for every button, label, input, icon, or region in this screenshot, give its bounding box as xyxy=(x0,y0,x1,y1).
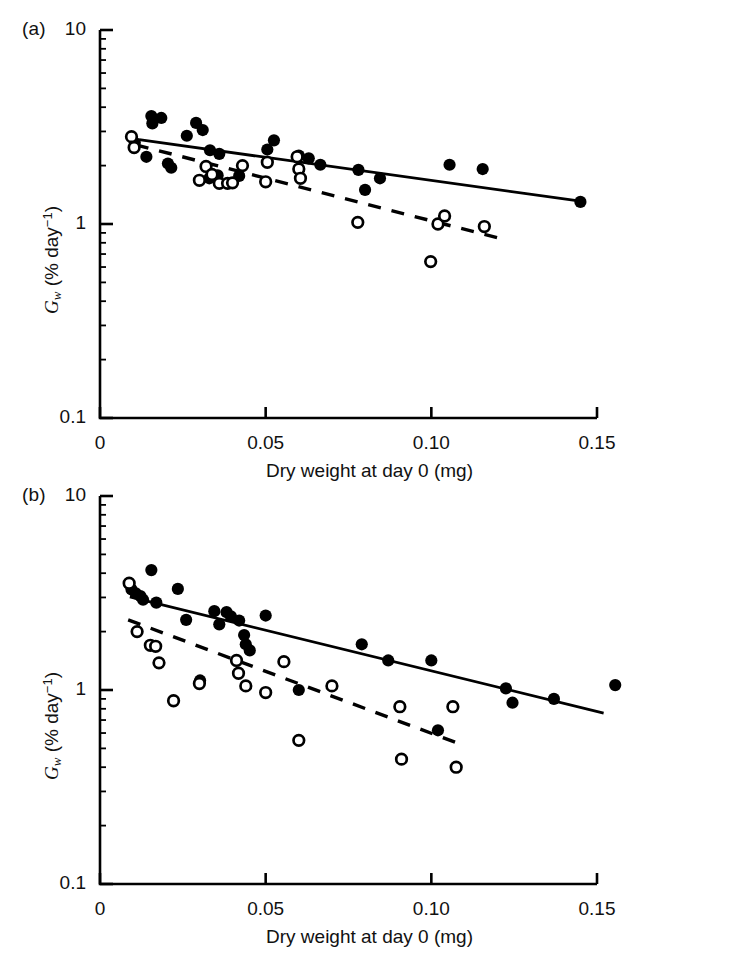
data-point-open-circles xyxy=(129,142,140,153)
data-point-open-circles xyxy=(479,221,490,232)
data-point-filled-circles xyxy=(165,162,177,174)
figure-root: (a)1010.100.050.100.15Dry weight at day … xyxy=(0,0,739,980)
data-point-open-circles xyxy=(240,681,251,692)
data-point-filled-circles xyxy=(145,564,157,576)
data-point-open-circles xyxy=(327,681,338,692)
data-point-filled-circles xyxy=(374,172,386,184)
data-point-filled-circles xyxy=(197,124,209,136)
data-point-open-circles xyxy=(352,217,363,228)
data-point-open-circles xyxy=(194,678,205,689)
data-point-filled-circles xyxy=(574,196,586,208)
dashed-regression xyxy=(136,145,501,239)
data-point-open-circles xyxy=(448,701,459,712)
data-point-open-circles xyxy=(395,701,406,712)
data-point-filled-circles xyxy=(382,654,394,666)
data-point-open-circles xyxy=(451,762,462,773)
data-point-open-circles xyxy=(237,160,248,171)
data-point-open-circles xyxy=(295,173,306,184)
plot-area-b xyxy=(0,466,739,956)
data-point-filled-circles xyxy=(443,159,455,171)
data-point-open-circles xyxy=(396,754,407,765)
data-point-filled-circles xyxy=(548,693,560,705)
chart-panel-a: (a)1010.100.050.100.15Dry weight at day … xyxy=(0,0,739,490)
data-point-filled-circles xyxy=(432,724,444,736)
axis-spines xyxy=(100,496,597,884)
data-point-filled-circles xyxy=(425,654,437,666)
data-point-filled-circles xyxy=(208,605,220,617)
data-point-open-circles xyxy=(425,256,436,267)
data-point-open-circles xyxy=(124,578,135,589)
data-point-filled-circles xyxy=(244,644,256,656)
data-point-filled-circles xyxy=(477,163,489,175)
data-point-filled-circles xyxy=(356,638,368,650)
data-point-open-circles xyxy=(262,157,273,168)
data-point-open-circles xyxy=(168,695,179,706)
data-point-open-circles xyxy=(292,152,303,163)
plot-area-a xyxy=(0,0,739,490)
data-point-filled-circles xyxy=(172,583,184,595)
solid-regression xyxy=(130,597,604,713)
data-point-filled-circles xyxy=(500,682,512,694)
data-point-open-circles xyxy=(154,658,165,669)
data-point-filled-circles xyxy=(506,697,518,709)
data-point-filled-circles xyxy=(181,130,193,142)
data-point-filled-circles xyxy=(150,597,162,609)
chart-panel-b: (b)1010.100.050.100.15Dry weight at day … xyxy=(0,466,739,956)
data-point-filled-circles xyxy=(155,112,167,124)
data-point-open-circles xyxy=(294,735,305,746)
data-point-open-circles xyxy=(260,177,271,188)
data-point-filled-circles xyxy=(260,609,272,621)
data-point-filled-circles xyxy=(359,184,371,196)
data-point-filled-circles xyxy=(140,151,152,163)
data-point-filled-circles xyxy=(137,594,149,606)
data-point-filled-circles xyxy=(233,614,245,626)
data-point-open-circles xyxy=(260,687,271,698)
data-point-open-circles xyxy=(132,626,143,637)
data-point-open-circles xyxy=(194,175,205,186)
data-point-open-circles xyxy=(150,641,161,652)
data-point-filled-circles xyxy=(213,618,225,630)
data-point-open-circles xyxy=(233,668,244,679)
data-point-open-circles xyxy=(227,178,238,189)
data-point-filled-circles xyxy=(352,164,364,176)
data-point-filled-circles xyxy=(268,134,280,146)
data-point-open-circles xyxy=(126,131,137,142)
data-point-filled-circles xyxy=(303,152,315,164)
data-point-filled-circles xyxy=(180,614,192,626)
data-point-open-circles xyxy=(231,655,242,666)
data-point-filled-circles xyxy=(609,679,621,691)
data-point-open-circles xyxy=(439,211,450,222)
data-point-filled-circles xyxy=(293,684,305,696)
axis-spines xyxy=(100,30,597,418)
data-point-filled-circles xyxy=(213,148,225,160)
data-point-filled-circles xyxy=(314,159,326,171)
data-point-open-circles xyxy=(279,656,290,667)
